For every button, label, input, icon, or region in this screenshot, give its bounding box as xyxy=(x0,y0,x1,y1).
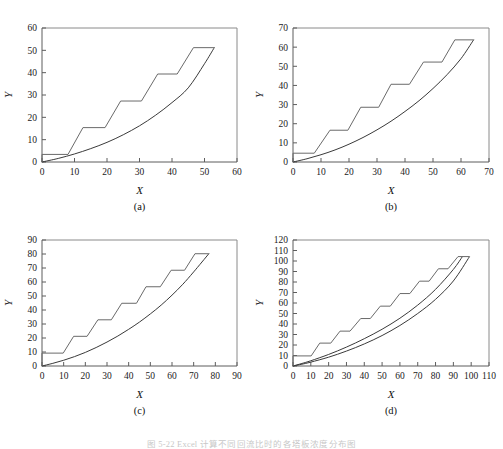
panel-letter-b: (b) xyxy=(385,201,398,213)
y-tick-label: 0 xyxy=(32,157,37,167)
y-tick-label: 0 xyxy=(32,361,37,371)
x-axis-title: X xyxy=(387,184,396,196)
y-tick-label: 0 xyxy=(283,361,288,371)
x-tick-label: 10 xyxy=(70,167,80,177)
x-tick-label: 0 xyxy=(40,167,45,177)
x-tick-label: 30 xyxy=(372,167,382,177)
plot-b: 010203040506070010203040506070XY(b) xyxy=(251,2,503,224)
y-tick-label: 90 xyxy=(28,235,38,245)
x-tick-label: 0 xyxy=(291,167,296,177)
y-axis-title: Y xyxy=(253,90,265,98)
y-tick-label: 50 xyxy=(28,46,38,56)
figure-root: 01020304050600102030405060XY(a) 01020304… xyxy=(0,0,503,449)
y-tick-label: 30 xyxy=(279,100,289,110)
y-axis-ticks: 0102030405060708090100110120 xyxy=(274,235,297,371)
plot-c: 01020304050607080900102030405060708090XY… xyxy=(0,224,251,422)
x-tick-label: 50 xyxy=(377,371,387,381)
plot-a: 01020304050600102030405060XY(a) xyxy=(0,2,251,224)
x-tick-label: 60 xyxy=(167,371,177,381)
x-tick-label: 0 xyxy=(291,371,296,381)
x-tick-label: 80 xyxy=(431,371,441,381)
x-tick-label: 50 xyxy=(428,167,438,177)
x-tick-label: 60 xyxy=(232,167,242,177)
plot-d: 0102030405060708090100110010203040506070… xyxy=(251,224,503,422)
y-tick-label: 20 xyxy=(279,119,289,129)
y-tick-label: 50 xyxy=(279,309,289,319)
equilibrium-curve-upper xyxy=(293,257,462,366)
panel-letter-a: (a) xyxy=(134,201,146,213)
x-tick-label: 50 xyxy=(146,371,156,381)
x-axis-ticks: 010203040506070 xyxy=(291,158,494,177)
plot-axes xyxy=(42,240,237,366)
x-axis-title: X xyxy=(387,388,396,400)
y-tick-label: 60 xyxy=(28,23,38,33)
y-axis-title: Y xyxy=(2,90,14,98)
equilibrium-curve-lower xyxy=(293,257,469,366)
y-tick-label: 60 xyxy=(28,277,38,287)
y-tick-label: 40 xyxy=(279,81,289,91)
x-tick-label: 40 xyxy=(400,167,410,177)
x-tick-label: 60 xyxy=(395,371,405,381)
x-axis-ticks: 0102030405060708090 xyxy=(40,362,242,381)
y-tick-label: 0 xyxy=(283,157,288,167)
x-tick-label: 30 xyxy=(135,167,145,177)
x-axis-ticks: 0102030405060 xyxy=(40,158,242,177)
panel-b: 010203040506070010203040506070XY(b) xyxy=(251,2,503,224)
y-tick-label: 10 xyxy=(279,351,289,361)
y-tick-label: 70 xyxy=(28,263,38,273)
x-tick-label: 60 xyxy=(456,167,466,177)
y-tick-label: 30 xyxy=(28,319,38,329)
x-tick-label: 10 xyxy=(316,167,326,177)
x-tick-label: 90 xyxy=(449,371,459,381)
staircase-path xyxy=(42,48,214,162)
panel-letter-c: (c) xyxy=(134,405,146,417)
y-tick-label: 90 xyxy=(279,267,289,277)
x-tick-label: 20 xyxy=(81,371,91,381)
x-tick-label: 70 xyxy=(189,371,199,381)
y-tick-label: 10 xyxy=(28,347,38,357)
staircase-path xyxy=(293,40,474,162)
y-tick-label: 10 xyxy=(279,138,289,148)
x-tick-label: 40 xyxy=(360,371,370,381)
x-tick-label: 70 xyxy=(484,167,494,177)
y-tick-label: 40 xyxy=(28,68,38,78)
y-tick-label: 80 xyxy=(28,249,38,259)
y-axis-ticks: 0102030405060708090 xyxy=(28,235,47,371)
plot-frame xyxy=(293,240,489,366)
staircase-path xyxy=(42,254,209,366)
x-tick-label: 110 xyxy=(482,371,496,381)
plot-frame xyxy=(42,240,237,366)
y-tick-label: 40 xyxy=(28,305,38,315)
y-tick-label: 70 xyxy=(279,23,289,33)
y-tick-label: 110 xyxy=(274,246,288,256)
x-tick-label: 70 xyxy=(413,371,423,381)
panel-grid: 01020304050600102030405060XY(a) 01020304… xyxy=(0,2,503,422)
y-tick-label: 60 xyxy=(279,298,289,308)
y-tick-label: 50 xyxy=(279,62,289,72)
x-tick-label: 50 xyxy=(200,167,210,177)
y-axis-ticks: 0102030405060 xyxy=(28,23,47,167)
y-tick-label: 20 xyxy=(28,113,38,123)
figure-caption: 图 5-22 Excel 计算不同回流比时的各塔板浓度分布图 xyxy=(0,438,503,449)
y-tick-label: 80 xyxy=(279,277,289,287)
y-tick-label: 20 xyxy=(28,333,38,343)
x-tick-label: 10 xyxy=(306,371,316,381)
panel-letter-d: (d) xyxy=(385,405,398,417)
y-axis-title: Y xyxy=(253,298,265,306)
x-tick-label: 20 xyxy=(324,371,334,381)
x-tick-label: 30 xyxy=(102,371,112,381)
panel-c: 01020304050607080900102030405060708090XY… xyxy=(0,224,251,422)
panel-d: 0102030405060708090100110010203040506070… xyxy=(251,224,503,422)
x-axis-title: X xyxy=(135,184,144,196)
y-tick-label: 60 xyxy=(279,43,289,53)
staircase-path xyxy=(293,257,469,366)
y-axis-title: Y xyxy=(2,298,14,306)
panel-a: 01020304050600102030405060XY(a) xyxy=(0,2,251,224)
x-tick-label: 0 xyxy=(40,371,45,381)
y-tick-label: 50 xyxy=(28,291,38,301)
x-axis-title: X xyxy=(135,388,144,400)
x-axis-ticks: 0102030405060708090100110 xyxy=(291,362,497,381)
x-tick-label: 20 xyxy=(344,167,354,177)
y-tick-label: 120 xyxy=(274,235,289,245)
x-tick-label: 20 xyxy=(102,167,112,177)
